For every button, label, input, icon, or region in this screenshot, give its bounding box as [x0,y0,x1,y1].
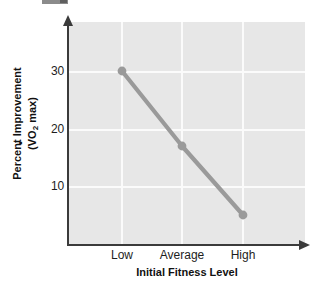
y-axis-line [67,24,69,246]
gridline-x-high [242,22,244,245]
x-axis-line [67,244,301,246]
y-axis-title-paren-open: ( [26,146,38,150]
x-axis-title: Initial Fitness Level [69,266,305,278]
x-axis-arrowhead-icon [299,240,310,250]
gridline-y-20 [69,129,305,131]
y-axis-title-subscript-2: 2 [31,126,40,130]
chart-figure: 30 20 10 Low Average High Percent Improv… [0,0,313,292]
x-tick-label-average: Average [160,248,204,262]
gridline-x-average [181,22,183,245]
x-tick-label-high: High [231,248,256,262]
v-dot-symbol: V [25,139,40,146]
gridline-y-30 [69,71,305,73]
x-tick-label-low: Low [111,248,133,262]
y-axis-title: Percent Improvement (VO2 max) [10,39,41,209]
gridline-x-low [121,22,123,245]
y-axis-title-line1: Percent Improvement [11,67,23,179]
y-axis-title-max: max) [26,97,38,126]
plot-area [69,22,305,245]
y-axis-arrowhead-icon [63,15,73,26]
gridline-y-10 [69,186,305,188]
y-axis-title-line2: (VO2 max) [25,39,41,209]
